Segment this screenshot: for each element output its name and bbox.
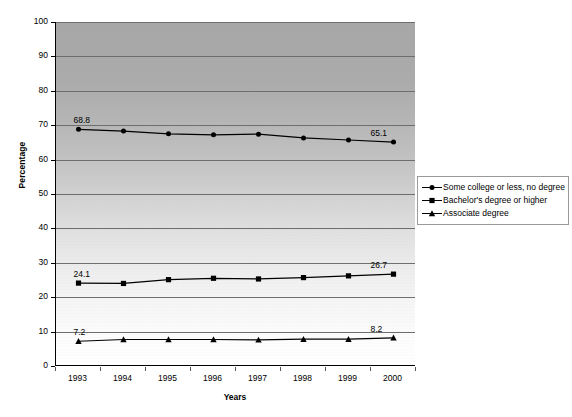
- x-axis-tick-mark: [145, 367, 146, 371]
- data-point-marker: [256, 132, 261, 137]
- data-point-marker: [76, 280, 81, 285]
- chart-legend: Some college or less, no degreeBachelor'…: [417, 176, 569, 225]
- legend-label: Some college or less, no degree: [443, 183, 565, 192]
- data-point-marker: [121, 281, 126, 286]
- x-axis-tick-label: 1997: [236, 373, 280, 383]
- data-point-marker: [346, 273, 351, 278]
- data-point-marker: [211, 132, 216, 137]
- x-axis-tick-label: 1994: [101, 373, 145, 383]
- data-point-marker: [391, 140, 396, 145]
- x-axis-tick-mark: [280, 367, 281, 371]
- x-axis-tick-label: 1996: [191, 373, 235, 383]
- x-axis-tick-mark: [190, 367, 191, 371]
- data-point-label: 8.2: [371, 324, 383, 334]
- data-point-label: 65.1: [371, 128, 388, 138]
- x-axis-tick-mark: [100, 367, 101, 371]
- data-point-marker: [166, 277, 171, 282]
- y-axis-tick-label: 20: [22, 292, 48, 301]
- x-axis-tick-mark: [370, 367, 371, 371]
- y-axis-tick-label: 50: [22, 189, 48, 198]
- data-point-marker: [256, 276, 261, 281]
- data-point-marker: [391, 272, 396, 277]
- x-axis-tick-mark: [325, 367, 326, 371]
- data-point-marker: [301, 275, 306, 280]
- legend-marker-triangle-icon: [421, 208, 443, 219]
- y-axis-tick-label: 60: [22, 155, 48, 164]
- x-axis-tick-mark: [235, 367, 236, 371]
- x-axis-tick-label: 2000: [371, 373, 415, 383]
- legend-item-2[interactable]: Associate degree: [421, 207, 564, 220]
- legend-item-0[interactable]: Some college or less, no degree: [421, 181, 564, 194]
- data-point-marker: [429, 198, 434, 203]
- data-point-label: 68.8: [74, 115, 91, 125]
- y-axis-tick-label: 80: [22, 86, 48, 95]
- legend-marker-diamond-icon: [421, 182, 443, 193]
- series-square: [76, 272, 396, 286]
- line-chart: Percentage 0102030405060708090100 199319…: [0, 0, 572, 417]
- x-axis-tick-label: 1995: [146, 373, 190, 383]
- data-point-label: 7.2: [74, 327, 86, 337]
- data-point-marker: [346, 137, 351, 142]
- series-triangle: [75, 335, 396, 344]
- x-axis-tick-label: 1993: [56, 373, 100, 383]
- x-axis-tick-mark: [55, 367, 56, 371]
- data-point-marker: [76, 127, 81, 132]
- series-diamond: [76, 127, 396, 145]
- y-axis-tick-label: 100: [22, 17, 48, 26]
- y-axis-tick-label: 90: [22, 51, 48, 60]
- data-point-marker: [121, 129, 126, 134]
- plot-area: [55, 22, 415, 366]
- x-axis-tick-label: 1998: [281, 373, 325, 383]
- data-point-marker: [301, 135, 306, 140]
- x-axis-tick-mark: [415, 367, 416, 371]
- legend-label: Bachelor's degree or higher: [443, 196, 547, 205]
- data-point-marker: [429, 210, 435, 216]
- x-axis-tick-label: 1999: [326, 373, 370, 383]
- legend-marker-square-icon: [421, 195, 443, 206]
- data-point-label: 24.1: [74, 269, 91, 279]
- series-group: [56, 22, 416, 366]
- data-point-label: 26.7: [371, 260, 388, 270]
- data-point-marker: [211, 276, 216, 281]
- y-axis-tick-label: 0: [22, 361, 48, 370]
- y-axis-tick-label: 10: [22, 327, 48, 336]
- x-axis-title: Years: [55, 392, 415, 402]
- y-axis-tick-label: 70: [22, 120, 48, 129]
- data-point-marker: [430, 185, 435, 190]
- legend-label: Associate degree: [443, 209, 509, 218]
- legend-item-1[interactable]: Bachelor's degree or higher: [421, 194, 564, 207]
- data-point-marker: [166, 131, 171, 136]
- y-axis-tick-label: 40: [22, 223, 48, 232]
- y-axis-tick-label: 30: [22, 258, 48, 267]
